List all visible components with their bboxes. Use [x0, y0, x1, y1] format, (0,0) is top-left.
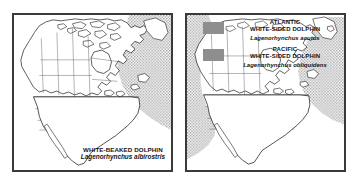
legend-item-pacific: PACIFIC WHITE-SIDED DOLPHIN Lagenorhynch… [203, 46, 343, 69]
species-region-atlantic: ATLANTIC [227, 19, 343, 26]
map-canvas-left: WHITE-BEAKED DOLPHIN Lagenorhynchus albi… [14, 15, 171, 170]
legend-swatch-atlantic [203, 22, 224, 34]
map-panel-white-sided-dolphins: ATLANTIC WHITE-SIDED DOLPHIN Lagenorhync… [185, 13, 346, 172]
species-scientific-name-atlantic: Lagenorhynchus acutus [227, 34, 343, 42]
legend-swatch-pacific [203, 49, 224, 61]
caption-white-beaked-dolphin: WHITE-BEAKED DOLPHIN Lagenorhynchus albi… [81, 146, 165, 161]
legend-text-pacific: PACIFIC WHITE-SIDED DOLPHIN Lagenorhynch… [224, 46, 343, 69]
species-legend: ATLANTIC WHITE-SIDED DOLPHIN Lagenorhync… [203, 19, 343, 73]
species-common-name-pacific: WHITE-SIDED DOLPHIN [227, 53, 343, 60]
species-common-name-atlantic: WHITE-SIDED DOLPHIN [227, 26, 343, 33]
legend-item-atlantic: ATLANTIC WHITE-SIDED DOLPHIN Lagenorhync… [203, 19, 343, 42]
species-common-name: WHITE-BEAKED DOLPHIN [81, 146, 165, 153]
species-scientific-name: Lagenorhynchus albirostris [81, 153, 165, 161]
map-panel-white-beaked-dolphin: WHITE-BEAKED DOLPHIN Lagenorhynchus albi… [12, 13, 173, 172]
species-region-pacific: PACIFIC [227, 46, 343, 53]
legend-text-atlantic: ATLANTIC WHITE-SIDED DOLPHIN Lagenorhync… [224, 19, 343, 42]
species-scientific-name-pacific: Lagenorhynchus obliquidens [227, 61, 343, 69]
map-canvas-right: ATLANTIC WHITE-SIDED DOLPHIN Lagenorhync… [187, 15, 344, 170]
dolphin-distribution-figure: WHITE-BEAKED DOLPHIN Lagenorhynchus albi… [0, 0, 357, 182]
